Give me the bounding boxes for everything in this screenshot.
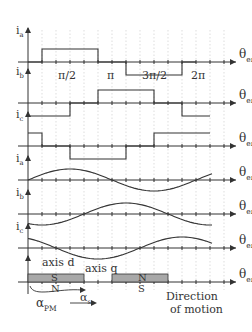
y-axis-label: ic	[16, 108, 24, 123]
x-axis-label: θer	[239, 267, 252, 284]
x-axis-arrow-icon	[230, 211, 236, 217]
x-axis-label: θer	[239, 131, 252, 148]
x-axis-arrow-icon	[230, 143, 236, 149]
y-axis-label: ic	[16, 220, 24, 235]
axis-d-label: axis d	[42, 256, 74, 269]
y-axis-arrow-icon	[25, 68, 31, 74]
x-axis-arrow-icon	[230, 245, 236, 251]
labels: θeriaθeribθericπ/2π3π/22πθeriaθeribθeric…	[16, 24, 252, 313]
pole1-top-label: S	[51, 272, 58, 283]
x-axis-arrow-icon	[230, 59, 236, 65]
y-axis-arrow-icon	[25, 111, 31, 117]
direction-label-line1: Direction	[166, 290, 218, 303]
x-axis-arrow-icon	[230, 100, 236, 106]
y-axis-arrow-icon	[25, 255, 31, 261]
pole2-bottom-label: S	[138, 283, 145, 294]
y-axis-label: ia	[16, 24, 24, 39]
pole1-bottom-label: N	[51, 283, 60, 294]
y-axis-label: ib	[16, 65, 25, 80]
alpha-pm-label: αPM	[36, 296, 57, 313]
y-axis-label: ib	[16, 186, 25, 201]
x-axis-arrow-icon	[230, 177, 236, 183]
x-axis-label: θer	[239, 88, 252, 105]
pole2-top-label: N	[138, 272, 147, 283]
y-axis-arrow-icon	[25, 189, 31, 195]
x-axis-label: θer	[239, 47, 252, 64]
axis-q-label: axis q	[85, 262, 117, 275]
x-axis-arrow-icon	[230, 279, 236, 285]
x-axis-label: θer	[239, 199, 252, 216]
alpha-s-arrowhead-icon	[91, 300, 97, 306]
x-axis-label: θer	[239, 233, 252, 250]
y-axis-arrow-icon	[25, 155, 31, 161]
x-tick-label: π	[107, 69, 114, 82]
y-axis-arrow-icon	[25, 27, 31, 33]
commutation-diagram: θeriaθeribθericπ/2π3π/22πθeriaθeribθeric…	[0, 0, 252, 332]
direction-label-line2: of motion	[170, 303, 223, 316]
y-axis-label: ia	[16, 152, 24, 167]
alpha-s-label: αs	[80, 291, 91, 306]
x-axis-label: θer	[239, 165, 252, 182]
x-tick-label: 2π	[191, 69, 205, 82]
x-tick-label: 3π/2	[142, 69, 167, 82]
x-tick-label: π/2	[58, 69, 76, 82]
